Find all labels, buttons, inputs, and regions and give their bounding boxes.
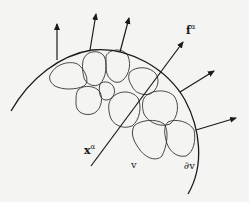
particle — [83, 52, 107, 86]
diagram-canvas — [0, 0, 249, 202]
boundary-force-4-arrow — [180, 71, 214, 92]
force-superscript: α — [191, 23, 196, 31]
particle — [50, 63, 87, 89]
particle — [99, 82, 114, 100]
boundary-force-2-arrow — [90, 14, 96, 50]
label-position-x-alpha: xα — [84, 144, 95, 156]
boundary-force-5-arrow — [196, 118, 236, 130]
label-volume-v: v — [131, 160, 137, 170]
particle-group — [50, 50, 195, 159]
particle — [165, 120, 195, 156]
label-boundary-dv: ∂v — [184, 161, 195, 171]
boundary-arc-dv — [11, 50, 199, 194]
particle — [106, 50, 130, 82]
label-force-f-alpha: fα — [186, 24, 195, 36]
boundary-force-3-arrow — [120, 18, 129, 52]
particle — [76, 86, 102, 114]
particle — [132, 120, 167, 159]
position-superscript: α — [91, 143, 96, 151]
